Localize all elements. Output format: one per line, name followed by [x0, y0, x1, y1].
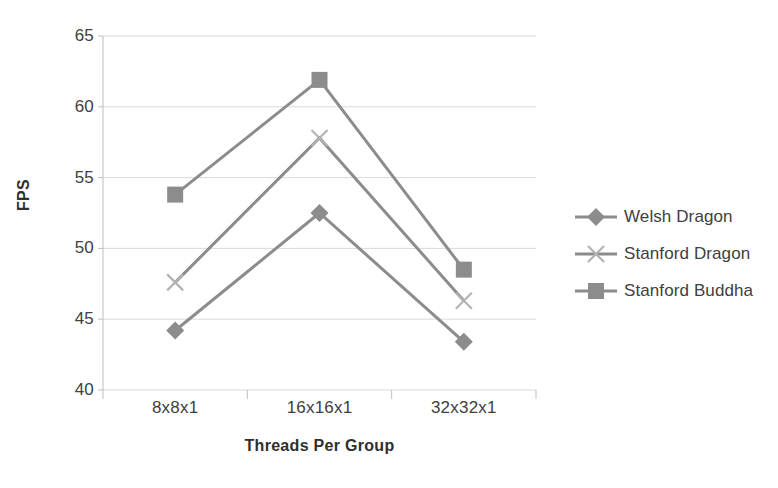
y-tick-label: 40 — [50, 380, 94, 400]
legend-label: Welsh Dragon — [624, 207, 733, 227]
legend-label: Stanford Buddha — [624, 281, 753, 301]
axis-lines — [98, 36, 103, 390]
y-tick-label: 55 — [50, 168, 94, 188]
y-axis-tick-labels: 656055504540 — [48, 0, 94, 488]
legend-marker-diamond-icon — [575, 207, 617, 227]
x-tick-label: 16x16x1 — [247, 398, 391, 428]
legend-marker-x-icon — [575, 244, 617, 264]
y-tick-label: 45 — [50, 309, 94, 329]
legend-item-1: Stanford Dragon — [575, 235, 775, 272]
marker-x — [456, 293, 472, 309]
chart-legend: Welsh DragonStanford DragonStanford Budd… — [575, 198, 775, 309]
y-tick-label: 60 — [50, 97, 94, 117]
marker-square — [312, 72, 328, 88]
chart-container: 656055504540 8x8x116x16x132x32x1 Threads… — [0, 0, 778, 488]
series-layer — [166, 72, 473, 351]
marker-x — [167, 274, 183, 290]
legend-item-0: Welsh Dragon — [575, 198, 775, 235]
y-tick-label: 50 — [50, 238, 94, 258]
marker-square — [456, 262, 472, 278]
marker-x — [312, 130, 328, 146]
series-line-2 — [175, 80, 464, 270]
x-axis-tick-labels: 8x8x116x16x132x32x1 — [103, 398, 536, 428]
y-tick-label: 65 — [50, 26, 94, 46]
legend-label: Stanford Dragon — [624, 244, 750, 264]
x-tick-label: 32x32x1 — [392, 398, 536, 428]
series-line-0 — [175, 213, 464, 342]
y-axis-title: FPS — [15, 150, 33, 240]
legend-marker-square-icon — [575, 281, 617, 301]
legend-item-2: Stanford Buddha — [575, 272, 775, 309]
x-axis-title: Threads Per Group — [103, 437, 536, 455]
marker-square — [167, 187, 183, 203]
x-tick-label: 8x8x1 — [103, 398, 247, 428]
